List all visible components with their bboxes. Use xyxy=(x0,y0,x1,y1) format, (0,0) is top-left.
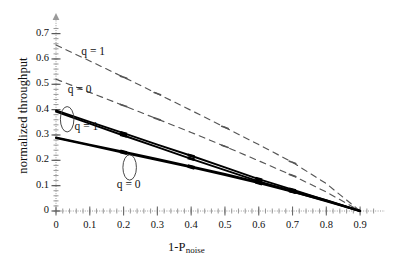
y-tick-label: 0 xyxy=(23,204,49,215)
series-marker xyxy=(222,126,228,128)
y-axis-title: normalized throughput xyxy=(16,41,31,191)
curve-annotation-solid-lower-pair: q = 0 xyxy=(117,178,141,190)
x-axis-title-subscript: noise xyxy=(186,245,205,255)
series-marker xyxy=(188,155,195,157)
series-marker xyxy=(120,152,127,154)
x-tick-label: 0.1 xyxy=(77,219,103,230)
y-tick-label: 0.1 xyxy=(23,179,49,190)
y-tick-label: 0.3 xyxy=(23,128,49,139)
y-tick-label: 0.4 xyxy=(23,103,49,114)
x-tick-label: 0.9 xyxy=(347,219,373,230)
series-marker xyxy=(222,145,228,147)
series-marker xyxy=(120,104,126,106)
series-marker xyxy=(289,161,295,163)
series-marker xyxy=(120,135,127,137)
x-tick-label: 0.2 xyxy=(111,219,137,230)
series-marker xyxy=(188,167,195,169)
x-tick-label: 0.6 xyxy=(246,219,272,230)
curve-annotation-dashed-lower: q = 0 xyxy=(68,83,92,95)
y-axis-arrowhead xyxy=(53,13,60,20)
x-tick-label: 0.4 xyxy=(178,219,204,230)
x-tick-label: 0.7 xyxy=(280,219,306,230)
curve-annotation-solid-upper-pair: q = 1 xyxy=(75,120,99,132)
axes-layer xyxy=(52,13,386,216)
series-marker xyxy=(289,191,296,193)
curve-annotation-dashed-upper: q = 1 xyxy=(81,45,105,57)
series-marker xyxy=(289,174,295,176)
curves-layer xyxy=(56,45,360,211)
x-axis-title-main: 1-P xyxy=(168,240,186,254)
series-marker xyxy=(255,182,262,184)
x-tick-label: 0.3 xyxy=(144,219,170,230)
series-marker xyxy=(188,158,195,160)
x-tick-label: 0.8 xyxy=(313,219,339,230)
series-line xyxy=(56,138,360,211)
x-tick-label: 0.5 xyxy=(212,219,238,230)
y-tick-label: 0.2 xyxy=(23,153,49,164)
series-marker xyxy=(120,76,126,78)
y-tick-label: 0.7 xyxy=(23,27,49,38)
ellipse-callout xyxy=(123,155,137,180)
series-marker xyxy=(154,118,160,120)
x-tick-label: 0 xyxy=(43,219,69,230)
y-tick-label: 0.6 xyxy=(23,52,49,63)
chart-figure: normalized throughput 1-Pnoise 00.10.20.… xyxy=(0,0,397,269)
x-axis-title: 1-Pnoise xyxy=(168,240,288,255)
series-marker xyxy=(154,93,160,95)
y-tick-label: 0.5 xyxy=(23,77,49,88)
ellipse-callout xyxy=(60,107,74,132)
series-line xyxy=(56,79,360,211)
